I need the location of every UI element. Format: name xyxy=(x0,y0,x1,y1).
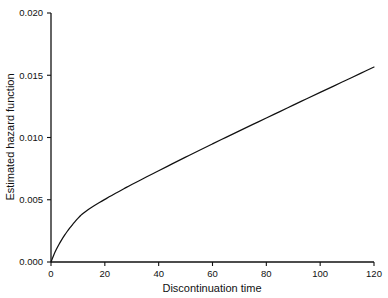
y-tick-label: 0.000 xyxy=(19,256,43,267)
x-tick-label: 60 xyxy=(207,268,218,279)
hazard-function-chart: 0.0000.0050.0100.0150.020 Estimated haza… xyxy=(0,0,388,298)
y-axis-group: 0.0000.0050.0100.0150.020 Estimated haza… xyxy=(4,7,51,267)
y-tick-label: 0.010 xyxy=(19,132,43,143)
x-axis-title: Discontinuation time xyxy=(162,282,261,294)
x-tick-labels: 020406080100120 xyxy=(48,268,382,279)
y-tick-label: 0.015 xyxy=(19,70,43,81)
x-tick-label: 80 xyxy=(261,268,272,279)
y-tick-label: 0.020 xyxy=(19,7,43,18)
y-tick-labels: 0.0000.0050.0100.0150.020 xyxy=(19,7,43,267)
x-axis-group: 020406080100120 Discontinuation time xyxy=(48,262,382,294)
x-tick-label: 20 xyxy=(100,268,111,279)
y-axis-title: Estimated hazard function xyxy=(4,73,16,200)
x-tick-label: 40 xyxy=(153,268,164,279)
x-tick-label: 120 xyxy=(366,268,382,279)
chart-canvas: 0.0000.0050.0100.0150.020 Estimated haza… xyxy=(0,0,388,298)
hazard-curve xyxy=(51,67,374,262)
x-tick-label: 100 xyxy=(312,268,328,279)
y-tick-label: 0.005 xyxy=(19,194,43,205)
x-tick-label: 0 xyxy=(48,268,53,279)
